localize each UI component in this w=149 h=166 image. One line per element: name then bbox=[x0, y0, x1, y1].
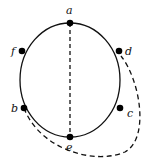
vertex-b bbox=[21, 105, 28, 112]
vertex-label-b: b bbox=[11, 102, 18, 115]
vertex-label-f: f bbox=[10, 45, 17, 58]
vertex-a bbox=[67, 20, 74, 27]
vertex-label-a: a bbox=[66, 4, 73, 17]
vertex-label-e: e bbox=[66, 141, 73, 154]
graph-diagram: a d c e b f bbox=[0, 0, 149, 166]
vertex-label-d: d bbox=[125, 45, 132, 58]
vertex-e bbox=[67, 134, 74, 141]
vertex-d bbox=[116, 48, 123, 55]
vertex-c bbox=[117, 105, 124, 112]
vertex-label-c: c bbox=[127, 107, 133, 120]
vertex-f bbox=[19, 48, 26, 55]
